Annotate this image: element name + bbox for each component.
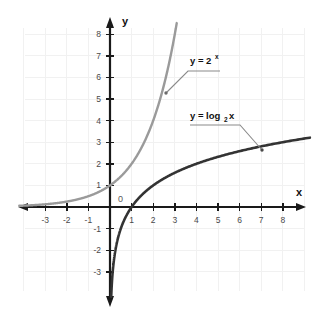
x-tick-label: 3 xyxy=(172,215,177,225)
y-tick-label: 7 xyxy=(96,51,101,61)
y-tick-label: 1 xyxy=(96,180,101,190)
logarithmic-label-subscript: 2 xyxy=(224,116,228,123)
x-tick-label: -2 xyxy=(63,215,71,225)
y-tick-label: 8 xyxy=(96,29,101,39)
x-tick-label: 2 xyxy=(151,215,156,225)
y-tick-label: 6 xyxy=(96,72,101,82)
logarithmic-label-main: y = log xyxy=(190,110,221,121)
exponential-logarithmic-graph-figure: -3-2-112345678 87654321-1-2-3 0 y x y = … xyxy=(0,0,318,315)
x-tick-label: -3 xyxy=(41,215,49,225)
y-tick-label: -2 xyxy=(93,245,101,255)
x-tick-label: 6 xyxy=(237,215,242,225)
y-tick-label: -1 xyxy=(93,224,101,234)
y-tick-label: -3 xyxy=(93,267,101,277)
x-tick-label: 1 xyxy=(129,215,134,225)
x-tick-label: 8 xyxy=(280,215,285,225)
y-tick-label: 2 xyxy=(96,159,101,169)
x-tick-label: 4 xyxy=(194,215,199,225)
x-tick-label: -1 xyxy=(85,215,93,225)
x-tick-label: 5 xyxy=(216,215,221,225)
figure-background xyxy=(0,0,318,315)
y-tick-label: 5 xyxy=(96,94,101,104)
exponential-label-exponent: x xyxy=(215,53,219,60)
y-tick-label: 3 xyxy=(96,137,101,147)
logarithmic-label-suffix: x xyxy=(229,110,235,121)
exponential-leader-endpoint xyxy=(164,91,167,94)
y-tick-label: 4 xyxy=(96,116,101,126)
y-axis-label: y xyxy=(122,15,129,27)
exponential-label-main: y = 2 xyxy=(190,55,211,66)
x-axis-label: x xyxy=(296,186,303,198)
x-tick-label: 7 xyxy=(259,215,264,225)
graph-canvas: -3-2-112345678 87654321-1-2-3 0 y x y = … xyxy=(0,0,318,315)
logarithmic-leader-endpoint xyxy=(260,148,263,151)
origin-label: 0 xyxy=(118,194,123,204)
